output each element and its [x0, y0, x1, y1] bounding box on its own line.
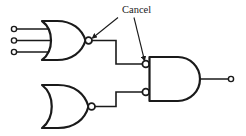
- nor-top-input-1[interactable]: [11, 26, 52, 31]
- nor-gate-top[interactable]: [11, 21, 92, 60]
- logic-circuit-diagram: Cancel: [0, 0, 246, 136]
- output-terminal-node[interactable]: [228, 76, 233, 81]
- input-terminal-3-node[interactable]: [11, 49, 16, 54]
- and-input-bubble-top[interactable]: [142, 61, 149, 68]
- wire-nor-bottom-to-and-bottom-input: [95, 92, 143, 107]
- circuit-canvas: Cancel: [0, 0, 246, 136]
- nor-gate-bottom[interactable]: [42, 85, 95, 128]
- and-gate-body-shape[interactable]: [150, 57, 200, 101]
- nor-bottom-body-shape[interactable]: [42, 85, 89, 128]
- input-terminal-2-node[interactable]: [11, 38, 16, 43]
- nor-top-input-2[interactable]: [11, 38, 55, 43]
- cancel-leader-to-and-input-bubble: [134, 18, 145, 61]
- nor-top-input-3[interactable]: [11, 49, 52, 54]
- nor-top-output-bubble[interactable]: [85, 37, 92, 44]
- cancel-annotation-label: Cancel: [122, 4, 151, 15]
- input-terminal-1-node[interactable]: [11, 26, 16, 31]
- wire-nor-top-to-and-top-input: [92, 41, 143, 65]
- cancel-leader-to-nor-output-bubble: [93, 18, 119, 39]
- nor-bottom-output-bubble[interactable]: [88, 103, 95, 110]
- and-input-bubble-bottom[interactable]: [142, 89, 149, 96]
- and-gate-output[interactable]: [142, 57, 233, 101]
